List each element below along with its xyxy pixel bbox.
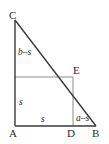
vertex-label-b: B (92, 128, 99, 139)
vertex-label-a: A (9, 128, 17, 139)
segment-label-s-vertical: s (19, 97, 23, 107)
segment-label-a-minus-s: a–s (76, 113, 89, 123)
vertex-label-e: E (73, 65, 80, 76)
vertex-label-d: D (67, 128, 75, 139)
geometry-figure: C E A D B b–s s s a–s (0, 0, 109, 144)
segment-label-b-minus-s: b–s (18, 47, 31, 57)
triangle-hypotenuse-cb (15, 20, 96, 126)
segment-label-s-horizontal: s (41, 114, 45, 124)
vertex-label-c: C (9, 10, 16, 21)
triangle-square-svg (0, 0, 109, 144)
